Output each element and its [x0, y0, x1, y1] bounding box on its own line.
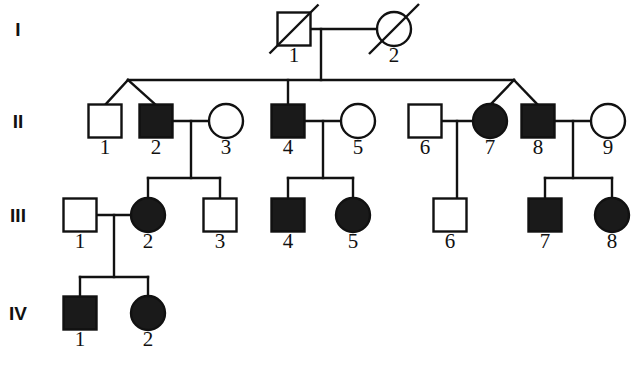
- affected-male-symbol[interactable]: [64, 297, 97, 330]
- diagonal-to-II8: [514, 80, 538, 105]
- individual-iii-8[interactable]: [595, 198, 629, 232]
- individual-number-ii-2: 2: [151, 135, 162, 159]
- individual-ii-2[interactable]: [140, 105, 173, 138]
- unaffected-male-symbol[interactable]: [64, 199, 97, 232]
- individual-number-iii-8: 8: [607, 229, 618, 253]
- individual-number-ii-4: 4: [283, 135, 294, 159]
- unaffected-male-symbol[interactable]: [89, 105, 122, 138]
- pedigree-diagram: 121234567891234567812 IIIIIIIV: [0, 0, 643, 373]
- individual-number-iii-7: 7: [540, 229, 551, 253]
- individual-ii-5[interactable]: [341, 104, 375, 138]
- individual-number-ii-1: 1: [100, 135, 111, 159]
- affected-male-symbol[interactable]: [272, 199, 305, 232]
- individual-number-ii-3: 3: [221, 135, 232, 159]
- individual-number-iii-6: 6: [445, 229, 456, 253]
- unaffected-female-symbol[interactable]: [591, 104, 625, 138]
- individual-number-iv-2: 2: [143, 327, 154, 351]
- individual-number-ii-5: 5: [353, 135, 364, 159]
- individual-ii-9[interactable]: [591, 104, 625, 138]
- unaffected-male-symbol[interactable]: [204, 199, 237, 232]
- individual-iii-5[interactable]: [336, 198, 370, 232]
- unaffected-female-symbol[interactable]: [209, 104, 243, 138]
- individual-ii-7[interactable]: [473, 104, 507, 138]
- diagonal-to-II1: [105, 80, 128, 105]
- individual-iv-2[interactable]: [131, 296, 165, 330]
- diagonal-to-II7: [490, 80, 514, 105]
- affected-male-symbol[interactable]: [272, 105, 305, 138]
- diagonal-to-II2: [128, 80, 156, 105]
- affected-female-symbol[interactable]: [336, 198, 370, 232]
- affected-male-symbol[interactable]: [529, 199, 562, 232]
- individual-number-iii-3: 3: [215, 229, 226, 253]
- individual-number-iii-1: 1: [75, 229, 86, 253]
- individual-iii-3[interactable]: [204, 199, 237, 232]
- unaffected-female-symbol[interactable]: [341, 104, 375, 138]
- individual-number-i-1: 1: [289, 43, 300, 67]
- generation-label-ii: II: [13, 111, 24, 132]
- individual-number-iv-1: 1: [75, 327, 86, 351]
- generation-label-i: I: [15, 19, 20, 40]
- connection-lines-layer: [80, 29, 612, 297]
- unaffected-male-symbol[interactable]: [409, 105, 442, 138]
- individual-iii-6[interactable]: [434, 199, 467, 232]
- individual-number-ii-8: 8: [533, 135, 544, 159]
- affected-female-symbol[interactable]: [473, 104, 507, 138]
- individual-ii-1[interactable]: [89, 105, 122, 138]
- individual-iii-2[interactable]: [131, 198, 165, 232]
- individual-iv-1[interactable]: [64, 297, 97, 330]
- generation-label-iv: IV: [9, 303, 27, 324]
- individual-iii-4[interactable]: [272, 199, 305, 232]
- individual-ii-6[interactable]: [409, 105, 442, 138]
- individual-iii-7[interactable]: [529, 199, 562, 232]
- affected-male-symbol[interactable]: [140, 105, 173, 138]
- pedigree-chart: 121234567891234567812 IIIIIIIV: [0, 0, 643, 373]
- individual-number-iii-4: 4: [283, 229, 294, 253]
- individual-number-iii-5: 5: [348, 229, 359, 253]
- individual-ii-8[interactable]: [522, 105, 555, 138]
- individual-number-ii-7: 7: [485, 135, 496, 159]
- affected-male-symbol[interactable]: [522, 105, 555, 138]
- affected-female-symbol[interactable]: [131, 198, 165, 232]
- generation-label-iii: III: [10, 205, 26, 226]
- individual-number-ii-6: 6: [420, 135, 431, 159]
- individual-ii-3[interactable]: [209, 104, 243, 138]
- unaffected-male-symbol[interactable]: [434, 199, 467, 232]
- affected-female-symbol[interactable]: [595, 198, 629, 232]
- generation-labels-layer: IIIIIIIV: [9, 19, 27, 324]
- individual-iii-1[interactable]: [64, 199, 97, 232]
- individual-ii-4[interactable]: [272, 105, 305, 138]
- affected-female-symbol[interactable]: [131, 296, 165, 330]
- individual-number-ii-9: 9: [603, 135, 614, 159]
- individual-number-iii-2: 2: [143, 229, 154, 253]
- individual-number-i-2: 2: [389, 43, 400, 67]
